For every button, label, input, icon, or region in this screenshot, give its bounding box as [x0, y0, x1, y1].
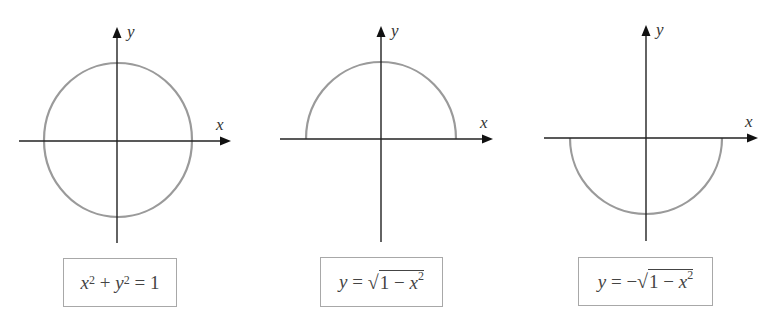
eq-equals: =	[130, 272, 150, 294]
eq-equals: =	[348, 271, 368, 293]
y-axis-label: y	[125, 22, 135, 41]
eq-one: 1	[380, 272, 390, 293]
x-axis-arrow-icon	[482, 135, 493, 144]
x-axis-arrow-icon	[747, 134, 758, 143]
unit-circle-curve	[44, 63, 192, 217]
eq-one: 1	[649, 272, 659, 293]
eq-var-x: x	[679, 272, 687, 293]
radical-icon: √	[368, 271, 379, 294]
panel-upper-semicircle: x y	[280, 21, 493, 242]
eq-exponent: 2	[687, 268, 693, 282]
eq-sign: −	[626, 271, 637, 293]
eq-equals: =	[606, 271, 626, 293]
eq-var-y: y	[598, 271, 606, 293]
eq-exponent: 2	[418, 269, 424, 283]
eq-radicand: 1 − x2	[379, 270, 424, 294]
eq-var-y: y	[339, 271, 347, 293]
eq-var-x: x	[409, 272, 417, 293]
eq-minus: −	[389, 272, 409, 293]
equation-box-circle: x2 + y2 = 1	[63, 258, 177, 307]
y-axis-arrow-icon	[642, 25, 651, 36]
x-axis-arrow-icon	[220, 137, 231, 146]
y-axis-label: y	[389, 21, 399, 40]
y-axis-arrow-icon	[113, 27, 122, 38]
x-axis-label: x	[479, 113, 488, 132]
eq-radicand: 1 − x2	[648, 269, 693, 293]
y-axis-label: y	[654, 20, 664, 39]
equation-box-lower-semicircle: y = −√1 − x2	[578, 257, 713, 306]
eq-exponent: 2	[124, 273, 130, 288]
panel-full-circle: x y	[19, 22, 231, 243]
y-axis-arrow-icon	[377, 26, 386, 37]
eq-var-x: x	[81, 272, 89, 294]
x-axis-label: x	[215, 115, 224, 134]
eq-minus: −	[659, 272, 679, 293]
x-axis-label: x	[744, 112, 753, 131]
eq-plus: +	[95, 272, 115, 294]
radical-icon: √	[637, 270, 648, 293]
panel-lower-semicircle: x y	[544, 20, 758, 241]
eq-exponent: 2	[89, 273, 95, 288]
eq-rhs: 1	[150, 272, 160, 294]
equation-box-upper-semicircle: y = √1 − x2	[320, 257, 443, 307]
eq-var-y: y	[115, 272, 123, 294]
